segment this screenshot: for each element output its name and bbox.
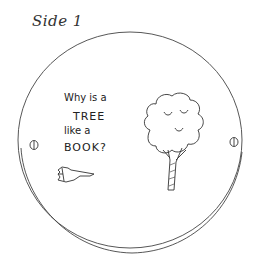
tree-icon	[144, 93, 203, 190]
pointing-hand-icon	[58, 167, 94, 182]
illustration: Side 1 Why is a TREE like a BOOK?	[0, 0, 260, 265]
question-line-4: BOOK?	[64, 141, 107, 154]
disc-icon	[18, 32, 242, 253]
question-line-1: Why is a	[64, 92, 107, 103]
question-line-3: like a	[64, 125, 90, 136]
hole-right-icon	[230, 138, 238, 147]
disc-drawing	[0, 0, 260, 265]
hole-left-icon	[30, 141, 38, 150]
question-line-2: TREE	[73, 110, 105, 123]
side-title: Side 1	[32, 12, 83, 30]
